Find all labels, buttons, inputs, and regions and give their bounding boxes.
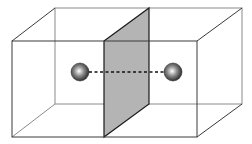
- depth-edge: [197, 8, 242, 41]
- left-sphere-icon: [71, 63, 89, 81]
- diagram-canvas: [0, 0, 252, 144]
- right-sphere-icon: [164, 63, 182, 81]
- dividing-plane: [104, 8, 149, 137]
- depth-edge: [12, 104, 55, 137]
- box-diagram: [0, 0, 252, 144]
- depth-edge: [197, 104, 242, 137]
- depth-edge: [12, 8, 55, 41]
